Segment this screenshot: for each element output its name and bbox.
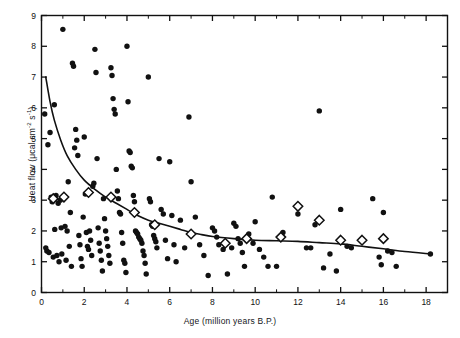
mean-value-diamond xyxy=(106,192,116,202)
data-point-circle xyxy=(92,47,97,52)
data-point-circle xyxy=(60,27,65,32)
data-point-circle xyxy=(235,236,240,241)
data-point-circle xyxy=(120,241,125,246)
x-axis-tick-label: 4 xyxy=(125,297,130,307)
data-point-circle xyxy=(130,165,135,170)
data-point-circle xyxy=(270,194,275,199)
data-point-circle xyxy=(93,70,98,75)
data-point-circle xyxy=(141,253,146,258)
data-point-circle xyxy=(163,237,168,242)
data-point-circle xyxy=(105,244,110,249)
data-point-circle xyxy=(86,247,91,252)
data-point-circle xyxy=(100,268,105,273)
data-point-circle xyxy=(225,271,230,276)
data-point-circle xyxy=(62,224,67,229)
data-point-circle xyxy=(52,102,57,107)
data-point-circle xyxy=(156,156,161,161)
data-point-circle xyxy=(242,264,247,269)
data-point-circle xyxy=(115,188,120,193)
data-point-circle xyxy=(146,74,151,79)
y-axis-title: Heat flow (μcal cm-2 s-1) xyxy=(26,106,37,201)
heat-flow-scatter-figure: 0246810121416180123456789 Age (million y… xyxy=(0,0,460,338)
data-point-circle xyxy=(139,241,144,246)
data-point-circle xyxy=(165,256,170,261)
data-point-circle xyxy=(78,256,83,261)
data-point-circle xyxy=(125,99,130,104)
data-point-circle xyxy=(68,210,73,215)
data-point-circle xyxy=(186,114,191,119)
data-point-circle xyxy=(214,234,219,239)
data-point-circle xyxy=(42,111,47,116)
data-point-circle xyxy=(321,265,326,270)
mean-value-diamond xyxy=(186,229,196,239)
data-point-circle xyxy=(394,264,399,269)
data-point-circle xyxy=(238,241,243,246)
data-point-circle xyxy=(308,245,313,250)
data-point-circle xyxy=(169,213,174,218)
data-point-circle xyxy=(148,199,153,204)
x-axis-tick-label: 16 xyxy=(379,297,389,307)
y-axis-title-container: Heat flow (μcal cm-2 s-1) xyxy=(21,59,37,249)
data-point-circle xyxy=(77,242,82,247)
y-axis-tick-label: 9 xyxy=(31,11,36,21)
data-point-circle xyxy=(101,196,106,201)
data-point-circle xyxy=(102,216,107,221)
x-axis-tick-label: 18 xyxy=(421,297,431,307)
data-point-circle xyxy=(317,108,322,113)
data-point-circle xyxy=(250,241,255,246)
x-axis-tick-label: 14 xyxy=(336,297,346,307)
mean-value-diamond xyxy=(357,235,367,245)
data-point-circle xyxy=(274,264,279,269)
data-point-circle xyxy=(229,245,234,250)
data-point-circle xyxy=(87,228,92,233)
data-point-circle xyxy=(158,207,163,212)
data-point-circle xyxy=(88,237,93,242)
data-point-circle xyxy=(67,244,72,249)
data-point-circle xyxy=(389,250,394,255)
data-point-circle xyxy=(140,248,145,253)
x-axis-tick-label: 0 xyxy=(39,297,44,307)
mean-value-diamond xyxy=(379,234,389,244)
data-point-circle xyxy=(63,257,68,262)
data-point-circle xyxy=(161,211,166,216)
data-point-circle xyxy=(334,268,339,273)
data-point-circle xyxy=(178,217,183,222)
data-point-circle xyxy=(123,270,128,275)
data-point-circle xyxy=(64,228,69,233)
data-point-circle xyxy=(205,273,210,278)
data-point-circle xyxy=(59,251,64,256)
data-point-circle xyxy=(381,210,386,215)
data-point-circle xyxy=(144,271,149,276)
data-point-circle xyxy=(182,245,187,250)
data-point-circle xyxy=(338,207,343,212)
data-point-circle xyxy=(114,167,119,172)
data-point-circle xyxy=(73,127,78,132)
data-point-circle xyxy=(46,250,51,255)
data-point-circle xyxy=(265,264,270,269)
y-axis-title-mid: s xyxy=(27,115,37,122)
data-point-circle xyxy=(94,156,99,161)
x-axis-tick-label: 10 xyxy=(250,297,260,307)
data-point-circle xyxy=(79,264,84,269)
data-point-circle xyxy=(171,242,176,247)
data-point-circle xyxy=(154,245,159,250)
data-point-circle xyxy=(167,159,172,164)
data-point-circle xyxy=(261,254,266,259)
x-axis-tick-label: 2 xyxy=(82,297,87,307)
data-point-circle xyxy=(107,261,112,266)
mean-value-diamond xyxy=(221,239,231,249)
data-point-circle xyxy=(428,251,433,256)
data-point-circle xyxy=(104,236,109,241)
data-point-circle xyxy=(106,253,111,258)
data-point-circle xyxy=(122,261,127,266)
data-point-circle xyxy=(173,259,178,264)
plot-canvas: 0246810121416180123456789 xyxy=(0,0,460,338)
data-point-circle xyxy=(56,259,61,264)
data-point-circle xyxy=(75,153,80,158)
data-point-circle xyxy=(131,193,136,198)
y-axis-tick-label: 0 xyxy=(31,288,36,298)
y-axis-title-prefix: Heat flow (μcal cm xyxy=(27,128,37,202)
data-point-circle xyxy=(72,145,77,150)
data-point-circle xyxy=(74,137,79,142)
data-point-circle xyxy=(257,247,262,252)
